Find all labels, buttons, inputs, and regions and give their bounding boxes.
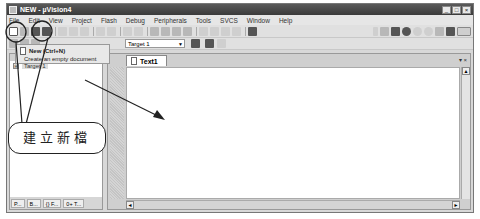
tab-templates[interactable]: 0+ T...: [63, 199, 84, 208]
configure-icon[interactable]: [446, 27, 455, 36]
indent-icon[interactable]: [199, 27, 208, 36]
title-bar: NEW - µVision4 _ □ ×: [7, 4, 473, 15]
menu-help[interactable]: Help: [279, 17, 292, 24]
find-icon[interactable]: [380, 27, 389, 36]
window-layout-icon[interactable]: [457, 27, 471, 36]
document-icon: [131, 57, 137, 65]
editor-text-area[interactable]: [126, 67, 460, 199]
menu-peripherals[interactable]: Peripherals: [154, 17, 187, 24]
save-icon[interactable]: [31, 27, 40, 36]
uvision-window: NEW - µVision4 _ □ × File Edit View Proj…: [6, 3, 474, 213]
find-in-files-icon[interactable]: [248, 27, 257, 36]
tooltip-description: Create an empty document: [20, 56, 105, 62]
bookmark-icon[interactable]: [150, 27, 159, 36]
menu-edit[interactable]: Edit: [28, 17, 39, 24]
breakpoint-disable-icon[interactable]: [424, 27, 433, 36]
tab-label: Text1: [140, 58, 158, 65]
incremental-find-icon[interactable]: [391, 27, 400, 36]
menu-tools[interactable]: Tools: [196, 17, 211, 24]
paste-icon[interactable]: [80, 27, 89, 36]
target-select-value: Target 1: [128, 41, 150, 47]
breakpoint-icon[interactable]: [413, 27, 422, 36]
cut-icon[interactable]: [58, 27, 67, 36]
document-icon: [20, 47, 26, 55]
copy-icon[interactable]: [69, 27, 78, 36]
unindent-icon[interactable]: [210, 27, 219, 36]
undo-icon[interactable]: [96, 27, 105, 36]
bookmark-clear-icon[interactable]: [183, 27, 192, 36]
save-all-icon[interactable]: [42, 27, 51, 36]
scroll-right-button[interactable]: ►: [452, 201, 460, 209]
window-title: NEW - µVision4: [20, 6, 442, 13]
tab-project[interactable]: P...: [11, 199, 25, 208]
debug-session-icon[interactable]: [402, 27, 411, 36]
uncomment-icon[interactable]: [232, 27, 241, 36]
bookmark-next-icon[interactable]: [172, 27, 181, 36]
tab-functions[interactable]: {} F...: [43, 199, 62, 208]
editor-gutter: [110, 67, 124, 199]
dropdown-arrow-icon[interactable]: [373, 27, 378, 36]
editor-pane: Text1 ▾ × ▲ ◄ ►: [107, 53, 471, 210]
menu-window[interactable]: Window: [247, 17, 270, 24]
project-pane-tabs: P... B... {} F... 0+ T...: [10, 197, 102, 209]
pane-controls[interactable]: ▾ ×: [459, 56, 467, 63]
redo-icon[interactable]: [107, 27, 116, 36]
nav-back-icon[interactable]: [123, 27, 132, 36]
comment-icon[interactable]: [221, 27, 230, 36]
bookmark-prev-icon[interactable]: [161, 27, 170, 36]
annotation-callout: 建立新檔: [8, 122, 106, 154]
scroll-up-button[interactable]: ▲: [462, 67, 470, 75]
target-options-icon[interactable]: [191, 39, 200, 48]
menu-file[interactable]: File: [9, 17, 19, 24]
new-file-tooltip: New (Ctrl+N) Create an empty document: [15, 44, 110, 64]
menu-flash[interactable]: Flash: [101, 17, 117, 24]
scroll-left-button[interactable]: ◄: [126, 201, 134, 209]
new-file-icon[interactable]: [9, 27, 18, 36]
tooltip-title: New (Ctrl+N): [29, 48, 65, 54]
target-select[interactable]: Target 1 ▼: [125, 39, 185, 48]
tab-text1[interactable]: Text1: [126, 55, 167, 66]
select-packs-icon[interactable]: [217, 39, 226, 48]
tab-books[interactable]: B...: [27, 199, 41, 208]
main-toolbar: [7, 25, 473, 38]
maximize-button[interactable]: □: [452, 6, 461, 14]
app-icon: [9, 6, 17, 14]
menu-debug[interactable]: Debug: [126, 17, 145, 24]
menu-view[interactable]: View: [49, 17, 63, 24]
vertical-scrollbar[interactable]: ▲: [461, 67, 470, 199]
open-file-icon[interactable]: [20, 27, 29, 36]
menu-svcs[interactable]: SVCS: [220, 17, 238, 24]
menu-bar: File Edit View Project Flash Debug Perip…: [7, 15, 473, 25]
close-button[interactable]: ×: [462, 6, 471, 14]
minimize-button[interactable]: _: [442, 6, 451, 14]
breakpoint-kill-icon[interactable]: [435, 27, 444, 36]
chevron-down-icon: ▼: [178, 40, 183, 48]
nav-forward-icon[interactable]: [134, 27, 143, 36]
horizontal-scrollbar[interactable]: ◄ ►: [126, 200, 460, 209]
manage-components-icon[interactable]: [205, 39, 214, 48]
editor-tabstrip: Text1 ▾ ×: [108, 54, 470, 66]
menu-project[interactable]: Project: [72, 17, 92, 24]
